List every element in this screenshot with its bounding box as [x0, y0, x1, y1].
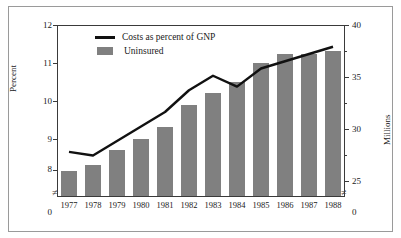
y-tick-left	[53, 63, 58, 64]
x-tick-label: 1978	[81, 200, 105, 210]
line-marker-icon	[95, 36, 115, 39]
legend-item-costs-gnp: Costs as percent of GNP	[95, 30, 215, 44]
y-tick-label-right: 35	[352, 73, 392, 82]
legend-label: Uninsured	[124, 46, 164, 56]
x-tick-label: 1988	[321, 200, 345, 210]
x-axis-tick-labels: 1977197819791980198119821983198419851986…	[57, 200, 345, 214]
x-tick-label: 1982	[177, 200, 201, 210]
x-tick-label: 1977	[57, 200, 81, 210]
y-axis-right-zero-label: 0	[352, 208, 392, 217]
chart-figure: Percent Millions 12 11 10 9 8 0 40 35 30…	[0, 0, 401, 238]
y-tick-label-right: 25	[352, 177, 392, 186]
y-tick-label-left: 9	[12, 135, 52, 144]
y-tick-right-minor	[344, 155, 347, 156]
y-tick-label-left: 11	[12, 59, 52, 68]
bar-swatch-icon	[97, 47, 113, 55]
x-tick-label: 1986	[273, 200, 297, 210]
y-tick-right	[344, 129, 349, 130]
x-tick-label: 1980	[129, 200, 153, 210]
x-tick-label: 1981	[153, 200, 177, 210]
legend-label: Costs as percent of GNP	[122, 32, 215, 42]
y-tick-right	[344, 77, 349, 78]
x-tick-label: 1979	[105, 200, 129, 210]
y-tick-right	[344, 25, 349, 26]
legend-item-uninsured: Uninsured	[95, 44, 215, 58]
y-axis-left-zero-label: 0	[12, 208, 52, 217]
y-tick-right-minor	[344, 103, 347, 104]
y-axis-left-title: Percent	[8, 65, 18, 92]
x-tick-label: 1984	[225, 200, 249, 210]
x-tick-label: 1987	[297, 200, 321, 210]
y-tick-label-right: 40	[352, 21, 392, 30]
y-tick-left	[53, 101, 58, 102]
y-tick-right-minor	[344, 51, 347, 52]
y-tick-left	[53, 139, 58, 140]
x-tick-label: 1983	[201, 200, 225, 210]
y-tick-label-left: 10	[12, 97, 52, 106]
y-tick-left	[53, 25, 58, 26]
y-tick-label-right: 30	[352, 125, 392, 134]
chart-legend: Costs as percent of GNP Uninsured	[95, 30, 215, 58]
y-tick-label-left: 12	[12, 21, 52, 30]
y-tick-right	[344, 181, 349, 182]
y-tick-left	[53, 170, 58, 171]
y-tick-label-left: 8	[12, 165, 52, 174]
x-tick-label: 1985	[249, 200, 273, 210]
